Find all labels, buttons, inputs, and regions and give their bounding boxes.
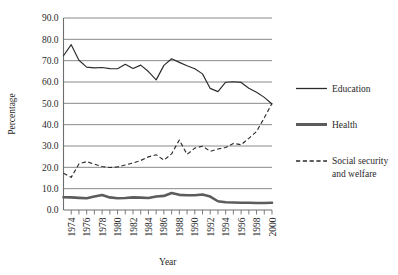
x-tick-label-1994: 1994: [221, 217, 231, 236]
x-tick-label-1980: 1980: [113, 217, 123, 236]
series-line-health: [64, 193, 273, 203]
y-tick-label-80.0: 80.0: [42, 35, 59, 45]
series-line-education: [64, 45, 273, 104]
legend: EducationHealthSocial securityand welfar…: [296, 84, 388, 179]
x-tick-label-1996: 1996: [237, 217, 247, 236]
y-tick-label-60.0: 60.0: [42, 77, 59, 87]
legend-item[interactable]: Social securityand welfare: [296, 156, 388, 179]
y-axis-title: Percentage: [7, 93, 17, 135]
chart-container: 0.010.020.030.040.050.060.070.080.090.0P…: [0, 0, 398, 275]
x-tick-label-1988: 1988: [175, 217, 185, 236]
x-tick-label-1978: 1978: [98, 217, 108, 236]
x-tick-label-1974: 1974: [67, 217, 77, 236]
y-tick-label-40.0: 40.0: [42, 120, 59, 130]
y-tick-label-0.0: 0.0: [47, 205, 59, 215]
y-tick-label-30.0: 30.0: [42, 141, 59, 151]
line-chart: 0.010.020.030.040.050.060.070.080.090.0P…: [0, 0, 398, 275]
x-tick-label-1990: 1990: [190, 217, 200, 236]
legend-label-2-line2: and welfare: [332, 169, 377, 179]
x-tick-label-1986: 1986: [159, 217, 169, 236]
y-tick-label-10.0: 10.0: [42, 184, 59, 194]
x-tick-label-1998: 1998: [252, 217, 262, 236]
y-tick-label-20.0: 20.0: [42, 163, 59, 173]
legend-item[interactable]: Health: [296, 120, 358, 130]
x-tick-label-1984: 1984: [144, 217, 154, 236]
x-tick-label-1982: 1982: [129, 217, 139, 236]
x-tick-label-1976: 1976: [82, 217, 92, 236]
y-tick-label-70.0: 70.0: [42, 56, 59, 66]
y-axis-tick-labels: 0.010.020.030.040.050.060.070.080.090.0: [42, 13, 59, 215]
x-tick-label-2000: 2000: [268, 217, 278, 236]
gridlines: [64, 18, 273, 189]
x-tick-label-1992: 1992: [206, 217, 216, 236]
legend-label-0: Education: [332, 84, 371, 94]
x-axis-tickmarks: [71, 210, 272, 215]
legend-label-1: Health: [332, 120, 358, 130]
legend-item[interactable]: Education: [296, 84, 371, 94]
y-tick-label-90.0: 90.0: [42, 13, 59, 23]
y-tick-label-50.0: 50.0: [42, 99, 59, 109]
series-group: [64, 45, 273, 203]
legend-label-2: Social security: [332, 156, 388, 166]
x-axis-title: Year: [159, 257, 177, 267]
series-line-social-security-and-welfare: [64, 103, 273, 177]
x-axis-tick-labels: 1974197619781980198219841986198819901992…: [67, 217, 278, 236]
